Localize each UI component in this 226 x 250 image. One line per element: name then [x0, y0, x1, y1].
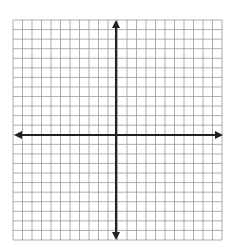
grid-lines [13, 20, 222, 240]
x-axis-left-arrow-icon [14, 131, 22, 139]
coordinate-plane [0, 0, 226, 250]
y-axis-up-arrow-icon [112, 20, 120, 28]
y-axis-down-arrow-icon [112, 232, 120, 240]
axes [14, 20, 223, 240]
